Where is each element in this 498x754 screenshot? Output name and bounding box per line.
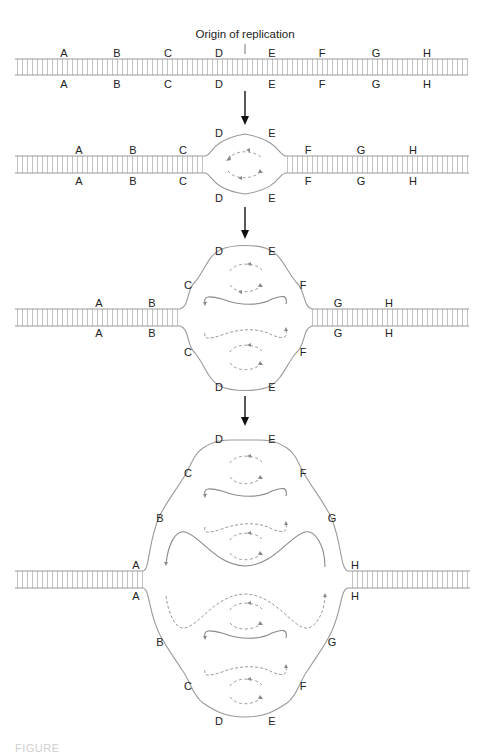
- locus-label: D: [215, 433, 223, 445]
- parental-strand-top: [15, 440, 470, 571]
- new-strand: [230, 623, 262, 629]
- locus-label: A: [95, 297, 103, 309]
- locus-label: A: [60, 47, 68, 59]
- locus-label: B: [113, 47, 120, 59]
- arrowhead-icon: [284, 521, 288, 525]
- locus-label: D: [215, 47, 223, 59]
- locus-label: C: [184, 346, 192, 358]
- locus-label: A: [95, 327, 103, 339]
- arrowhead-icon: [258, 551, 263, 555]
- new-leading-strand: [205, 630, 287, 638]
- new-leading-strand-outer: [166, 532, 325, 567]
- locus-label: G: [328, 636, 337, 648]
- base-pair-rungs-left: [15, 309, 180, 326]
- locus-label: C: [164, 78, 172, 90]
- new-strand-top: [228, 152, 262, 159]
- arrowhead-icon: [284, 664, 288, 668]
- locus-label: A: [132, 559, 140, 571]
- locus-label: D: [215, 127, 223, 139]
- locus-label: A: [60, 78, 68, 90]
- locus-label: D: [215, 192, 223, 204]
- locus-label: B: [129, 175, 136, 187]
- arrowhead-icon: [258, 283, 263, 287]
- base-pair-rungs: [15, 59, 468, 75]
- locus-label: H: [351, 559, 359, 571]
- arrowhead-icon: [247, 343, 251, 347]
- step-arrow-down-icon: [241, 207, 249, 239]
- arrowhead-icon: [258, 169, 263, 173]
- locus-label: C: [164, 47, 172, 59]
- arrowhead-icon: [247, 677, 251, 681]
- locus-label: G: [372, 78, 381, 90]
- locus-label: B: [113, 78, 120, 90]
- new-strand: [230, 285, 262, 292]
- arrowhead-icon: [258, 621, 263, 625]
- new-strand: [230, 697, 262, 704]
- stage-4-top-labels: A B C D E F G H: [132, 433, 359, 571]
- new-strand: [230, 603, 262, 610]
- locus-label: B: [148, 297, 155, 309]
- new-leading-strand: [205, 488, 287, 496]
- arrowhead-icon: [323, 593, 327, 597]
- locus-label: H: [385, 327, 393, 339]
- stage-3-bottom-labels: A B C D E F G H: [95, 327, 393, 393]
- stage-2-top-labels: A B C D E F G H: [75, 127, 417, 156]
- locus-label: E: [268, 127, 275, 139]
- locus-label: F: [319, 47, 326, 59]
- new-strand: [230, 477, 262, 484]
- locus-label: G: [357, 175, 366, 187]
- locus-label: G: [334, 297, 343, 309]
- locus-label: C: [184, 279, 192, 291]
- stage-1-double-helix: Origin of replication A B C D E F G H A …: [15, 28, 468, 90]
- locus-label: G: [328, 512, 337, 524]
- parental-strand-top: [15, 134, 469, 156]
- arrowhead-icon: [247, 454, 251, 458]
- parental-strand-top: [15, 246, 469, 310]
- arrowhead-icon: [203, 302, 207, 306]
- locus-label: H: [351, 590, 359, 602]
- locus-label: G: [357, 144, 366, 156]
- new-strand: [230, 264, 262, 271]
- arrowhead-icon: [203, 636, 207, 640]
- locus-label: E: [268, 192, 275, 204]
- locus-label: E: [268, 47, 275, 59]
- stage-3-top-labels: A B C D E F G H: [95, 245, 393, 309]
- locus-label: E: [268, 381, 275, 393]
- locus-label: C: [179, 175, 187, 187]
- locus-label: A: [132, 590, 140, 602]
- stage-4-bidirectional-forks: A B C D E F G H A B C D E F G H: [15, 433, 470, 727]
- arrowhead-icon: [284, 327, 288, 331]
- arrowhead-icon: [238, 176, 242, 180]
- locus-label: C: [179, 144, 187, 156]
- base-pair-rungs-right: [348, 571, 470, 588]
- stage-1-bottom-labels: A B C D E F G H: [60, 78, 431, 90]
- locus-label: D: [215, 245, 223, 257]
- arrowhead-icon: [203, 494, 207, 498]
- base-pair-rungs-left: [15, 156, 205, 173]
- locus-label: E: [268, 433, 275, 445]
- locus-label: D: [215, 715, 223, 727]
- locus-label: C: [184, 467, 192, 479]
- arrowhead-icon: [247, 531, 251, 535]
- locus-label: H: [423, 47, 431, 59]
- new-strand: [230, 679, 262, 686]
- locus-label: H: [423, 78, 431, 90]
- locus-label: B: [129, 144, 136, 156]
- locus-label: F: [300, 279, 307, 291]
- step-arrow-down-icon: [241, 91, 249, 125]
- locus-label: B: [148, 327, 155, 339]
- locus-label: D: [215, 78, 223, 90]
- locus-label: F: [319, 78, 326, 90]
- new-strand: [230, 553, 262, 560]
- locus-label: H: [409, 144, 417, 156]
- locus-label: B: [156, 636, 163, 648]
- arrowhead-icon: [258, 361, 263, 365]
- arrowhead-icon: [258, 475, 263, 479]
- locus-label: F: [300, 346, 307, 358]
- new-strand-bottom: [228, 171, 262, 178]
- locus-label: C: [184, 680, 192, 692]
- arrowhead-icon: [247, 601, 251, 605]
- locus-label: H: [409, 175, 417, 187]
- locus-label: H: [385, 297, 393, 309]
